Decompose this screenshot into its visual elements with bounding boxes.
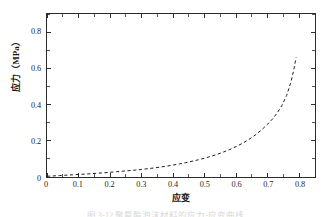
- x-tick-label: 0.4: [168, 180, 178, 189]
- data-series-group: [47, 57, 296, 176]
- figure-container: 00.10.20.30.40.50.60.70.8 00.20.40.60.8 …: [0, 0, 331, 217]
- plot-area: [46, 13, 316, 178]
- x-tick-label: 0.1: [73, 180, 83, 189]
- figure-caption: 图 3-12 聚氨酯泡沫材料的应力-应变曲线: [0, 208, 331, 217]
- series-line: [47, 57, 296, 176]
- y-axis-title: 应力（MPa）: [9, 17, 22, 113]
- y-tick-label: 0: [8, 174, 41, 183]
- x-tick-label: 0: [44, 180, 48, 189]
- x-tick-label: 0.6: [232, 180, 242, 189]
- x-tick-label: 0.2: [104, 180, 114, 189]
- y-tick-label: 0.2: [8, 137, 41, 146]
- x-tick-label: 0.5: [200, 180, 210, 189]
- x-tick-label: 0.8: [295, 180, 305, 189]
- x-tick-label: 0.7: [263, 180, 273, 189]
- y-axis-ticks: [47, 14, 315, 177]
- x-tick-label: 0.3: [136, 180, 146, 189]
- plot-svg: [47, 14, 315, 177]
- x-axis-title: 应变: [46, 191, 316, 204]
- x-axis-ticks: [47, 14, 315, 177]
